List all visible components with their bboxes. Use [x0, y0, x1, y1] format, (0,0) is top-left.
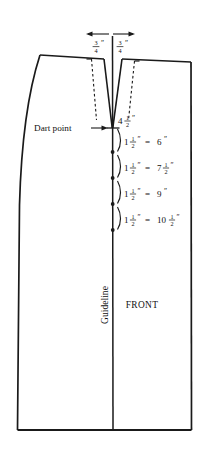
top-measurement-right-unit: ″	[125, 39, 128, 48]
top-measurement-left-numerator: 3	[94, 39, 97, 46]
spacing-whole-4: 1	[124, 215, 129, 225]
result-unit-1: ″	[164, 135, 167, 144]
pattern-diagram: 3 4 ″ 3 4 ″	[0, 0, 209, 460]
guideline-tick-dot-2	[111, 176, 115, 180]
result-denominator-4: 2	[170, 220, 173, 227]
guideline-tick-dot-1	[111, 150, 115, 154]
result-numerator-4: 1	[170, 213, 173, 220]
spacing-whole-2: 1	[124, 163, 129, 173]
spacing-denominator-1: 2	[131, 142, 134, 149]
spacing-unit-2: ″	[138, 161, 141, 170]
center-guideline	[113, 36, 114, 430]
result-denominator-2: 2	[164, 168, 167, 175]
spacing-numerator-3: 1	[131, 187, 134, 194]
result-unit-2: ″	[171, 161, 174, 170]
spacing-equals-1: =	[145, 137, 150, 147]
guideline-tick-dot-4	[111, 228, 115, 232]
top-measurement-right-numerator: 3	[118, 39, 121, 46]
top-measurement-right-denominator: 4	[118, 47, 121, 54]
guideline-label: Guideline	[99, 286, 110, 324]
spacing-denominator-2: 2	[131, 168, 134, 175]
spacing-numerator-2: 1	[131, 161, 134, 168]
dart-depth-numerator: 1	[126, 114, 129, 121]
spacing-equals-3: =	[145, 189, 150, 199]
front-panel-label: FRONT	[126, 300, 159, 310]
dart-depth-unit: ″	[132, 114, 135, 123]
spacing-unit-3: ″	[138, 187, 141, 196]
guideline-tick-dot-3	[111, 202, 115, 206]
spacing-numerator-4: 1	[131, 213, 134, 220]
spacing-denominator-3: 2	[131, 194, 134, 201]
result-whole-3: 9	[157, 189, 162, 199]
top-measurement-left-denominator: 4	[94, 47, 97, 54]
spacing-equals-2: =	[145, 163, 150, 173]
result-whole-1: 6	[157, 137, 162, 147]
spacing-numerator-1: 1	[131, 135, 134, 142]
dart-point-label: Dart point	[34, 123, 72, 133]
spacing-whole-1: 1	[124, 137, 129, 147]
result-unit-3: ″	[164, 187, 167, 196]
result-numerator-2: 1	[164, 161, 167, 168]
spacing-unit-1: ″	[138, 135, 141, 144]
top-measurement-left-unit: ″	[101, 39, 104, 48]
dart-depth-whole: 4	[118, 116, 123, 126]
result-whole-2: 7	[157, 163, 162, 173]
spacing-denominator-4: 2	[131, 220, 134, 227]
spacing-whole-3: 1	[124, 189, 129, 199]
result-whole-4: 10	[157, 215, 167, 225]
spacing-unit-4: ″	[138, 213, 141, 222]
spacing-equals-4: =	[145, 215, 150, 225]
dart-depth-denominator: 2	[126, 121, 129, 128]
result-unit-4: ″	[177, 213, 180, 222]
right-panel-side-seam	[191, 62, 192, 430]
